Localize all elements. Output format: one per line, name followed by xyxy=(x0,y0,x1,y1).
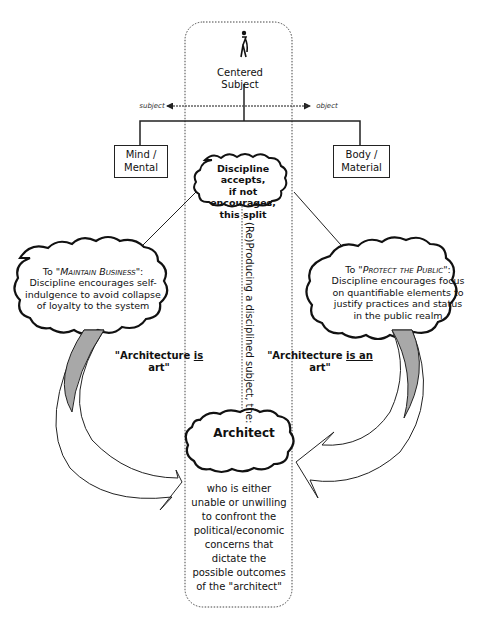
body-line1: Body / xyxy=(346,149,378,162)
quote-architecture-is-art: "Architecture is art" xyxy=(104,350,214,374)
person-walking-icon xyxy=(232,30,256,60)
reproducing-label: (Re)Producing a disciplined subject, the… xyxy=(244,222,255,402)
mind-mental-box: Mind / Mental xyxy=(114,145,168,178)
axis-object-label: object xyxy=(313,102,341,110)
architect-cloud-shape xyxy=(186,409,294,472)
mind-line2: Mental xyxy=(124,162,158,175)
body-material-box: Body / Material xyxy=(333,145,390,178)
left-cloud-heading: To "Maintain Business": xyxy=(18,266,168,277)
body-line2: Material xyxy=(341,162,382,175)
split-bracket xyxy=(140,121,360,145)
right-cloud-heading: To "Protect the Public": xyxy=(328,264,468,275)
architect-label: Architect xyxy=(200,426,288,440)
right-cloud-text: To "Protect the Public": Discipline enco… xyxy=(328,264,468,321)
left-cloud-text: To "Maintain Business": Discipline encou… xyxy=(18,266,168,312)
axis-subject-label: subject xyxy=(138,102,166,110)
quote-architecture-is-an-art: "Architecture is an art" xyxy=(258,350,382,374)
architect-description: who is either unable or unwilling to con… xyxy=(188,482,290,594)
mind-line1: Mind / xyxy=(126,149,157,162)
discipline-cloud-text: Discipline accepts, if not encourages, t… xyxy=(196,163,290,220)
centered-subject-label: Centered Subject xyxy=(200,67,280,91)
